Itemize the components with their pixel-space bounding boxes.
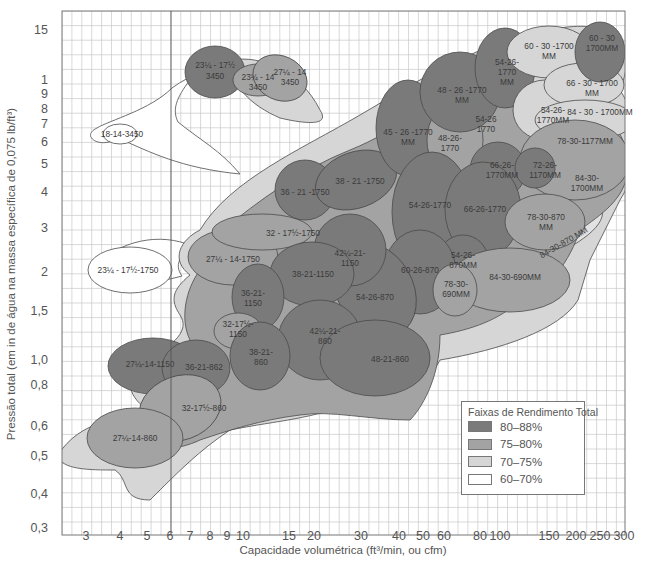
region-label: 48-26-	[438, 133, 462, 143]
region-label: MM	[585, 88, 599, 98]
y-axis-title: Pressão total (em in de água na massa es…	[5, 108, 17, 441]
legend-item: 60–70%	[468, 471, 578, 489]
region-label: 1150	[341, 258, 359, 268]
x-tick-label: 250	[590, 529, 611, 543]
region-label: MM	[500, 77, 514, 87]
region-label: 32-17½-860	[182, 403, 227, 413]
x-tick-label: 5	[144, 529, 151, 543]
region-label: 60 - 30	[589, 33, 615, 43]
legend-swatch-60-70	[468, 474, 492, 485]
x-tick-label: 30	[354, 529, 368, 543]
region-label: 36-21-862	[185, 362, 223, 372]
region-label: 78-30-870	[527, 212, 565, 222]
region-label: 48 - 26 -1770	[437, 85, 487, 95]
region-label: 23¼ - 14	[242, 72, 275, 82]
region-label: 1700MM	[571, 183, 603, 193]
region-label: 84-30-690MM	[489, 272, 541, 282]
y-tick-label: 1	[41, 73, 48, 87]
y-tick-label: 6	[41, 135, 48, 149]
legend-title: Faixas de Rendimento Total	[468, 406, 578, 418]
y-tick-label: 1,5	[31, 304, 48, 318]
region-label: 1770	[498, 67, 517, 77]
region-label: 72-26-	[533, 160, 557, 170]
region-label: 54-26-	[495, 57, 519, 67]
legend-label: 75–80%	[500, 438, 542, 450]
region-label: 78-30-1177MM	[557, 136, 613, 146]
region-label: 870MM	[449, 260, 477, 270]
region-label: 1770MM	[537, 115, 569, 125]
region-label: MM	[401, 137, 415, 147]
region-label: 860	[318, 336, 332, 346]
x-tick-label: 4	[117, 529, 124, 543]
y-tick-label: 8	[41, 102, 48, 116]
region-label: 860	[254, 357, 268, 367]
x-tick-label: 300	[614, 529, 635, 543]
region-label: 690MM	[442, 289, 470, 299]
y-tick-label: 1,0	[31, 353, 48, 367]
y-tick-label: 7	[41, 117, 48, 131]
legend-swatch-70-75	[468, 456, 492, 467]
y-tick-label: 4	[41, 185, 48, 199]
legend-label: 80–88%	[500, 421, 542, 433]
legend: Faixas de Rendimento Total 80–88% 75–80%…	[461, 401, 585, 495]
y-tick-label: 2	[41, 265, 48, 279]
x-tick-label: 60	[437, 529, 451, 543]
y-tick-label: 5	[41, 157, 48, 171]
x-tick-label: 80	[473, 529, 487, 543]
x-axis-title: Capacidade volumétrica (ft³/min, ou cfm)	[239, 544, 446, 556]
x-tick-label: 20	[307, 529, 321, 543]
region-label: 60-26-870	[401, 265, 439, 275]
legend-label: 60–70%	[500, 473, 542, 485]
region-label: 18-14-3450	[101, 129, 144, 139]
region-label: 1170MM	[529, 170, 561, 180]
region-label: 78-30-	[444, 279, 468, 289]
region-label: 23¼ - 17½-1750	[98, 265, 159, 275]
region-label: 36 - 21 -1750	[280, 187, 330, 197]
y-tick-label: 0,8	[31, 378, 48, 392]
legend-item: 80–88%	[468, 418, 578, 436]
region-label: 23¼ - 17½	[195, 60, 235, 70]
x-tick-label: 15	[282, 529, 296, 543]
y-tick-label: 0,4	[31, 487, 48, 501]
region-label: 38-21-1150	[292, 269, 334, 279]
y-axis-ticks: 151987654321,51,00,80,60,50,40,3	[31, 23, 48, 535]
region-label: 27¼ - 14-1750	[206, 254, 260, 264]
region-label: 54-26-	[451, 250, 475, 260]
region-label: 27¼ - 14	[274, 67, 307, 77]
x-tick-label: 150	[539, 529, 560, 543]
region-label: 45 - 26 -1770	[383, 127, 433, 137]
x-tick-label: 3	[83, 529, 90, 543]
region-label: 27¼-14-860	[113, 433, 158, 443]
legend-swatch-75-80	[468, 439, 492, 450]
region-label: 32-17½-	[223, 319, 254, 329]
region-label: MM	[542, 51, 556, 61]
legend-item: 75–80%	[468, 436, 578, 454]
region-label: 60 - 30 -1700	[524, 41, 574, 51]
region-label: 3450	[281, 77, 300, 87]
region-label: 54-26-1770	[409, 200, 452, 210]
region-label: 54-26-870	[356, 292, 394, 302]
region-label: 48-21-860	[371, 354, 409, 364]
y-tick-label: 9	[41, 87, 48, 101]
y-tick-label: 3	[41, 221, 48, 235]
x-tick-label: 6	[167, 529, 174, 543]
region-label: 32 - 17½-1750	[266, 228, 320, 238]
x-tick-label: 7	[187, 529, 194, 543]
region-label: MM	[539, 222, 553, 232]
region-label: 36-21-	[241, 288, 265, 298]
legend-swatch-80-88	[468, 421, 492, 432]
region-label: 38 - 21 -1750	[335, 176, 385, 186]
region-label: 66-26-	[490, 160, 514, 170]
region-label: 84-30-	[575, 173, 599, 183]
region-label: 84 - 30 - 1700MM	[567, 107, 633, 117]
region-label: 3450	[249, 82, 268, 92]
region-label: 42¼-21-	[310, 326, 341, 336]
legend-item: 70–75%	[468, 453, 578, 471]
y-tick-label: 0,5	[31, 449, 48, 463]
x-tick-label: 200	[566, 529, 587, 543]
x-tick-label: 9	[224, 529, 231, 543]
legend-label: 70–75%	[500, 456, 542, 468]
y-tick-label: 15	[34, 23, 48, 37]
region-label: 54-26	[475, 114, 497, 124]
x-tick-label: 8	[207, 529, 214, 543]
